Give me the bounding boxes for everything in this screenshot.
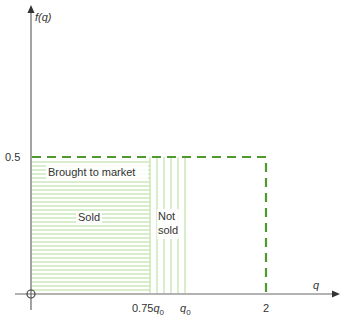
x-axis-arrow-icon bbox=[332, 291, 340, 298]
x-tick-q0: q0 bbox=[180, 302, 191, 317]
not-sold-label-line2: sold bbox=[158, 224, 178, 236]
y-axis-label: f(q) bbox=[35, 11, 52, 23]
y-axis-arrow-icon bbox=[28, 5, 35, 13]
y-tick-0-5: 0.5 bbox=[5, 151, 20, 163]
x-axis-label: q bbox=[313, 279, 320, 291]
sold-label: Sold bbox=[78, 211, 100, 223]
x-tick-2: 2 bbox=[263, 302, 269, 314]
brought-to-market-label: Brought to market bbox=[48, 166, 135, 178]
x-tick-075q0: 0.75q0 bbox=[132, 302, 165, 317]
not-sold-label-line1: Not bbox=[158, 210, 175, 222]
sold-hatch bbox=[32, 162, 150, 290]
chart: f(q) q 0.5 0.75q0 q0 2 Brought to market… bbox=[0, 0, 349, 321]
